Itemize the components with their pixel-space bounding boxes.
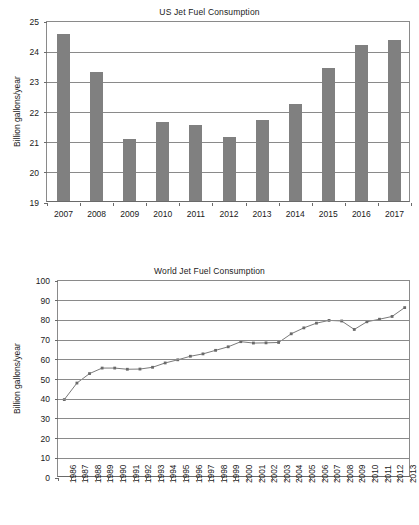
line-data-point-marker: [302, 326, 305, 329]
line-x-tick-mark: [247, 478, 248, 481]
bar: [388, 40, 401, 201]
line-data-point-marker: [151, 366, 154, 369]
line-data-point-marker: [88, 372, 91, 375]
line-x-tick-mark: [310, 478, 311, 481]
line-x-axis-label: 1998: [219, 465, 229, 483]
bar-x-tick-mark: [378, 203, 379, 206]
line-x-tick-mark: [298, 478, 299, 481]
line-x-axis-label: 2009: [357, 465, 367, 483]
line-x-tick-mark: [58, 478, 59, 481]
line-x-axis-label: 1997: [206, 465, 216, 483]
line-data-point-marker: [101, 367, 104, 370]
line-x-axis-label: 2004: [294, 465, 304, 483]
line-y-tick-label: 100: [20, 277, 50, 286]
bar-y-tick-mark: [44, 112, 47, 113]
line-x-axis-label: 1988: [93, 465, 103, 483]
line-x-tick-mark: [71, 478, 72, 481]
bar: [223, 137, 236, 201]
bar: [57, 34, 70, 201]
line-data-point-marker: [202, 352, 205, 355]
line-x-tick-mark: [121, 478, 122, 481]
line-x-tick-mark: [285, 478, 286, 481]
bar-x-tick-mark: [47, 203, 48, 206]
line-x-axis-label: 2003: [282, 465, 292, 483]
bar-x-axis-label: 2013: [245, 209, 279, 219]
line-gridline: [58, 320, 409, 321]
line-x-tick-mark: [209, 478, 210, 481]
line-x-tick-mark: [411, 478, 412, 481]
line-data-point-marker: [277, 341, 280, 344]
line-x-axis-label: 1996: [194, 465, 204, 483]
line-x-tick-mark: [398, 478, 399, 481]
line-data-point-marker: [76, 382, 79, 385]
line-data-point-marker: [353, 328, 356, 331]
bar-y-tick-label: 21: [9, 138, 39, 147]
line-data-point-marker: [126, 368, 129, 371]
bar-x-axis-label: 2011: [179, 209, 213, 219]
line-data-point-marker: [239, 340, 242, 343]
line-x-axis-label: 2006: [320, 465, 330, 483]
line-y-tick-label: 30: [20, 415, 50, 424]
bar-x-axis-label: 2017: [377, 209, 411, 219]
line-data-point-marker: [164, 362, 167, 365]
line-gridline: [58, 418, 409, 419]
line-x-axis-label: 1991: [131, 465, 141, 483]
bar-y-tick-label: 20: [9, 169, 39, 178]
bar-x-tick-mark: [279, 203, 280, 206]
line-x-tick-mark: [222, 478, 223, 481]
line-chart-title: World Jet Fuel Consumption: [0, 262, 419, 276]
line-x-tick-mark: [159, 478, 160, 481]
line-x-axis-label: 1990: [118, 465, 128, 483]
line-x-tick-mark: [361, 478, 362, 481]
bar-y-tick-mark: [44, 22, 47, 23]
line-series-path: [64, 308, 404, 400]
line-x-tick-mark: [83, 478, 84, 481]
line-data-point-marker: [290, 332, 293, 335]
bar-x-tick-mark: [312, 203, 313, 206]
line-x-tick-mark: [146, 478, 147, 481]
line-y-tick-mark: [55, 458, 58, 459]
bar-x-tick-mark: [246, 203, 247, 206]
line-data-point-marker: [403, 306, 406, 309]
bar-x-axis-label: 2014: [278, 209, 312, 219]
line-data-point-marker: [139, 368, 142, 371]
line-x-tick-mark: [260, 478, 261, 481]
bar: [156, 122, 169, 201]
line-y-tick-label: 20: [20, 434, 50, 443]
line-gridline: [58, 438, 409, 439]
line-x-tick-mark: [335, 478, 336, 481]
line-x-axis-label: 2008: [345, 465, 355, 483]
bar: [322, 68, 335, 201]
line-x-axis-label: 1994: [168, 465, 178, 483]
bar-x-tick-mark: [411, 203, 412, 206]
line-y-tick-label: 90: [20, 296, 50, 305]
bar-y-tick-label: 22: [9, 108, 39, 117]
line-gridline: [58, 379, 409, 380]
line-chart-plot-area: 0102030405060708090100198619871988198919…: [57, 280, 410, 477]
line-x-tick-mark: [171, 478, 172, 481]
line-x-axis-label: 2013: [408, 465, 418, 483]
line-y-tick-mark: [55, 399, 58, 400]
bar-y-tick-mark: [44, 142, 47, 143]
line-x-tick-mark: [386, 478, 387, 481]
line-y-tick-label: 50: [20, 375, 50, 384]
bar-x-axis-label: 2008: [80, 209, 114, 219]
bar-y-tick-mark: [44, 52, 47, 53]
line-gridline: [58, 359, 409, 360]
line-gridline: [58, 458, 409, 459]
line-y-tick-mark: [55, 418, 58, 419]
line-x-axis-label: 1992: [143, 465, 153, 483]
line-x-axis-label: 1987: [80, 465, 90, 483]
line-data-point-marker: [214, 349, 217, 352]
line-x-tick-mark: [96, 478, 97, 481]
bar-x-axis-label: 2016: [344, 209, 378, 219]
line-y-tick-label: 70: [20, 336, 50, 345]
line-data-point-marker: [227, 345, 230, 348]
bar-x-tick-mark: [212, 203, 213, 206]
line-x-axis-label: 2000: [244, 465, 254, 483]
line-x-tick-mark: [272, 478, 273, 481]
line-y-tick-mark: [55, 340, 58, 341]
line-x-axis-label: 1989: [105, 465, 115, 483]
line-y-tick-mark: [55, 281, 58, 282]
line-data-point-marker: [315, 322, 318, 325]
